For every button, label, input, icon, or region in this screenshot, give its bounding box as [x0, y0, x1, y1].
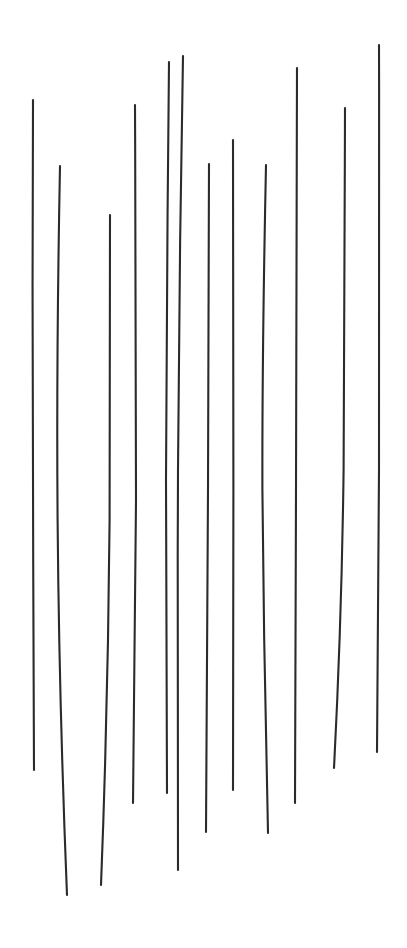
strokes-drawing: [0, 0, 407, 948]
artwork-canvas: [0, 0, 407, 948]
stroke-1: [33, 100, 34, 770]
canvas-background: [0, 0, 407, 948]
